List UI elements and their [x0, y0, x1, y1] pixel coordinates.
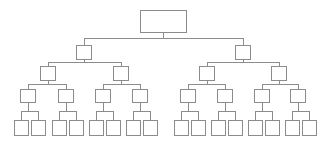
tree-node-box[interactable]: [218, 90, 233, 103]
tree-node-box[interactable]: [77, 45, 92, 59]
tree-edge: [298, 103, 309, 121]
tree-edge: [140, 103, 150, 121]
tree-edge: [262, 80, 279, 90]
tree-node-box[interactable]: [106, 121, 120, 136]
tree-node-box[interactable]: [126, 121, 140, 136]
tree-node-leaf[interactable]: [69, 121, 83, 136]
tree-node[interactable]: [181, 90, 196, 103]
tree-node[interactable]: [236, 45, 251, 59]
edge-layer: [21, 32, 309, 121]
tree-node-leaf[interactable]: [126, 121, 140, 136]
tree-edge: [207, 59, 243, 66]
tree-node-box[interactable]: [59, 90, 74, 103]
tree-edge: [21, 103, 28, 121]
tree-edge: [279, 80, 298, 90]
tree-node[interactable]: [255, 90, 270, 103]
tree-edge: [218, 103, 225, 121]
tree-edge: [28, 103, 38, 121]
tree-edge: [66, 103, 76, 121]
tree-node-box[interactable]: [265, 121, 279, 136]
tree-node[interactable]: [77, 45, 92, 59]
tree-node-leaf[interactable]: [14, 121, 28, 136]
tree-node-root[interactable]: [141, 10, 187, 32]
tree-edge: [103, 103, 113, 121]
tree-edge: [188, 80, 207, 90]
tree-node-box[interactable]: [211, 121, 225, 136]
tree-node[interactable]: [272, 66, 287, 80]
tree-edge: [84, 59, 121, 66]
tree-node-box[interactable]: [69, 121, 83, 136]
tree-node-box[interactable]: [272, 66, 287, 80]
tree-node-leaf[interactable]: [106, 121, 120, 136]
tree-node[interactable]: [200, 66, 215, 80]
tree-node-box[interactable]: [255, 90, 270, 103]
tree-node-box[interactable]: [41, 66, 56, 80]
tree-edge: [243, 59, 279, 66]
tree-node-box[interactable]: [96, 90, 111, 103]
tree-edge: [59, 103, 66, 121]
tree-edge: [96, 103, 103, 121]
tree-edge: [188, 103, 198, 121]
tree-node-leaf[interactable]: [285, 121, 299, 136]
tree-node-box[interactable]: [302, 121, 316, 136]
tree-node-leaf[interactable]: [89, 121, 103, 136]
tree-node[interactable]: [133, 90, 148, 103]
tree-node-box[interactable]: [174, 121, 188, 136]
tree-node-leaf[interactable]: [52, 121, 66, 136]
tree-node-leaf[interactable]: [211, 121, 225, 136]
tree-node-box[interactable]: [291, 90, 306, 103]
tree-node-box[interactable]: [228, 121, 242, 136]
tree-edge: [121, 80, 140, 90]
tree-node[interactable]: [21, 90, 36, 103]
tree-edge: [292, 103, 298, 121]
tree-edge: [28, 80, 48, 90]
tree-node-box[interactable]: [141, 10, 187, 32]
tree-node-leaf[interactable]: [174, 121, 188, 136]
tree-node-box[interactable]: [89, 121, 103, 136]
tree-edge: [255, 103, 262, 121]
tree-edge: [181, 103, 188, 121]
tree-node[interactable]: [114, 66, 129, 80]
tree-node-leaf[interactable]: [248, 121, 262, 136]
tree-diagram-canvas: [0, 0, 323, 144]
tree-node-box[interactable]: [191, 121, 205, 136]
tree-node-box[interactable]: [31, 121, 45, 136]
tree-node[interactable]: [41, 66, 56, 80]
tree-edge: [164, 32, 244, 45]
tree-node-leaf[interactable]: [31, 121, 45, 136]
tree-node-box[interactable]: [181, 90, 196, 103]
tree-node[interactable]: [59, 90, 74, 103]
tree-edge: [48, 80, 66, 90]
tree-edge: [262, 103, 272, 121]
tree-edge: [225, 103, 235, 121]
tree-node-box[interactable]: [14, 121, 28, 136]
tree-node-box[interactable]: [21, 90, 36, 103]
tree-edge: [207, 80, 225, 90]
tree-node-box[interactable]: [200, 66, 215, 80]
tree-edge: [84, 32, 164, 45]
tree-node-leaf[interactable]: [302, 121, 316, 136]
tree-node[interactable]: [96, 90, 111, 103]
tree-node[interactable]: [218, 90, 233, 103]
tree-node-box[interactable]: [133, 90, 148, 103]
tree-node-leaf[interactable]: [191, 121, 205, 136]
tree-diagram: [0, 0, 323, 144]
tree-node-leaf[interactable]: [265, 121, 279, 136]
tree-node-box[interactable]: [143, 121, 157, 136]
tree-node[interactable]: [291, 90, 306, 103]
tree-edge: [48, 59, 84, 66]
tree-edge: [103, 80, 121, 90]
tree-node-box[interactable]: [52, 121, 66, 136]
tree-node-box[interactable]: [236, 45, 251, 59]
tree-node-box[interactable]: [248, 121, 262, 136]
tree-node-box[interactable]: [114, 66, 129, 80]
tree-node-box[interactable]: [285, 121, 299, 136]
tree-node-leaf[interactable]: [228, 121, 242, 136]
tree-node-leaf[interactable]: [143, 121, 157, 136]
tree-edge: [133, 103, 140, 121]
